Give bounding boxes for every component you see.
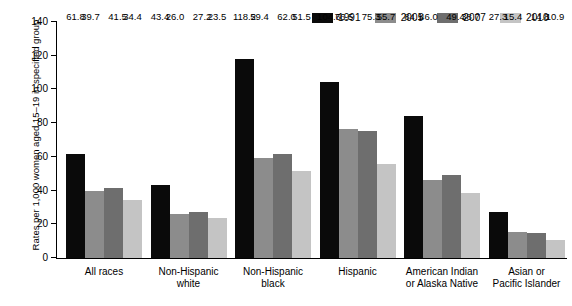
bar-column: 76.5 [339, 22, 358, 258]
y-tick-140: 140 [51, 21, 57, 22]
x-axis-category-label: Asian or Pacific Islander [477, 266, 572, 289]
bar-group-bars: 84.146.049.438.7 [401, 22, 483, 258]
y-tick-120: 120 [51, 55, 57, 56]
bar-column: 84.1 [404, 22, 423, 258]
bar [527, 233, 546, 258]
bar-group-bars: 27.315.414.810.9 [486, 22, 568, 258]
bar-column: 51.5 [292, 22, 311, 258]
bar-column: 104.6 [320, 22, 339, 258]
bar-column: 59.4 [254, 22, 273, 258]
bar [461, 193, 480, 258]
bar-column: 49.4 [442, 22, 461, 258]
y-tick-label-60: 60 [37, 151, 48, 162]
bar-value-label: 39.7 [81, 11, 100, 22]
bar-group: 61.839.741.534.4All races [63, 22, 145, 258]
bar-column: 26.0 [170, 22, 189, 258]
bar [235, 59, 254, 258]
bar-column: 10.9 [546, 22, 565, 258]
bar [151, 185, 170, 258]
y-tick-20: 20 [51, 223, 57, 224]
bar-group-bars: 118.259.462.051.5 [232, 22, 314, 258]
bar [442, 175, 461, 258]
bar-value-label: 15.4 [504, 11, 523, 22]
bar [546, 240, 565, 258]
bar-column: 34.4 [123, 22, 142, 258]
bar-value-label: 76.5 [335, 11, 354, 22]
bar [254, 158, 273, 258]
bar-value-label: 55.7 [377, 11, 396, 22]
bar [404, 116, 423, 258]
y-tick-label-80: 80 [37, 117, 48, 128]
bar-group-bars: 104.676.575.355.7 [317, 22, 399, 258]
y-tick-label-120: 120 [31, 50, 48, 61]
bar-column: 61.8 [66, 22, 85, 258]
bar-group: 118.259.462.051.5Non-Hispanic black [232, 22, 314, 258]
bar-value-label: 26.0 [166, 11, 185, 22]
bar-column: 55.7 [377, 22, 396, 258]
bar [423, 180, 442, 258]
y-tick-label-100: 100 [31, 83, 48, 94]
bar [66, 154, 85, 258]
bar [377, 164, 396, 258]
bar [292, 171, 311, 258]
bar [208, 218, 227, 258]
bar [273, 154, 292, 259]
y-tick-label-40: 40 [37, 185, 48, 196]
bar-column: 14.8 [527, 22, 546, 258]
bar-column: 27.3 [489, 22, 508, 258]
bar-column: 39.7 [85, 22, 104, 258]
bar [320, 82, 339, 258]
bar-value-label: 51.5 [292, 11, 311, 22]
bar [123, 200, 142, 258]
bar [339, 129, 358, 258]
bar-value-label: 23.5 [208, 11, 227, 22]
bar [170, 214, 189, 258]
bar-group: 104.676.575.355.7Hispanic [317, 22, 399, 258]
bar-group-bars: 43.426.027.223.5 [148, 22, 230, 258]
bar-column: 41.5 [104, 22, 123, 258]
bar-group: 43.426.027.223.5Non-Hispanic white [148, 22, 230, 258]
bar-column: 23.5 [208, 22, 227, 258]
bar-value-label: 46.0 [419, 11, 438, 22]
y-tick-40: 40 [51, 190, 57, 191]
bar-column: 15.4 [508, 22, 527, 258]
bar-group-bars: 61.839.741.534.4 [63, 22, 145, 258]
bar-column: 75.3 [358, 22, 377, 258]
y-tick-80: 80 [51, 122, 57, 123]
bar-value-label: 59.4 [250, 11, 269, 22]
bar [85, 191, 104, 258]
y-tick-60: 60 [51, 156, 57, 157]
bar [358, 131, 377, 258]
bar [489, 212, 508, 258]
bar-column: 43.4 [151, 22, 170, 258]
plot-area: 020406080100120140 61.839.741.534.4All r… [56, 22, 567, 259]
bar-value-label: 34.4 [123, 11, 142, 22]
bar-column: 46.0 [423, 22, 442, 258]
y-tick-0: 0 [51, 257, 57, 258]
bar-group: 27.315.414.810.9Asian or Pacific Islande… [486, 22, 568, 258]
bar-value-label: 10.9 [546, 11, 565, 22]
y-tick-100: 100 [51, 88, 57, 89]
bar-column: 27.2 [189, 22, 208, 258]
bar-value-label: 38.7 [461, 11, 480, 22]
y-tick-label-140: 140 [31, 16, 48, 27]
bar-column: 118.2 [235, 22, 254, 258]
y-axis-title: Rates per 1,000 women aged 15–19 in spec… [31, 0, 41, 275]
y-tick-label-20: 20 [37, 218, 48, 229]
bar-column: 62.0 [273, 22, 292, 258]
bar-chart: 1991 2005 2007 2010 Rates per 1,000 wome… [0, 0, 572, 306]
bar-group: 84.146.049.438.7American Indian or Alask… [401, 22, 483, 258]
bar [189, 212, 208, 258]
y-tick-label-0: 0 [42, 252, 48, 263]
bar [508, 232, 527, 258]
bar [104, 188, 123, 258]
bar-column: 38.7 [461, 22, 480, 258]
